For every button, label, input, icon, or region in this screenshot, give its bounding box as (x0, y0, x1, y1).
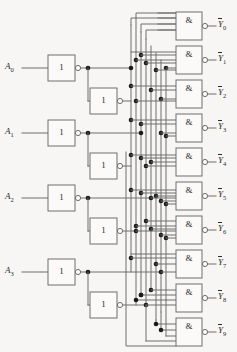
input-label-a3: A3 (5, 265, 14, 277)
svg-text:1: 1 (59, 127, 64, 137)
bus-feed-routing (131, 13, 176, 39)
gate-y4: & (176, 148, 216, 176)
svg-text:&: & (185, 117, 192, 127)
gate-y7: & (176, 250, 216, 278)
output-label-y0: Y0 (218, 19, 226, 31)
svg-text:&: & (185, 15, 192, 25)
svg-text:1: 1 (59, 266, 64, 276)
svg-text:&: & (185, 83, 192, 93)
gate-y2: & (176, 80, 216, 108)
svg-text:1: 1 (101, 299, 106, 309)
svg-text:&: & (185, 49, 192, 59)
circuit-diagram: 1 1 1 1 (0, 0, 237, 352)
svg-text:&: & (185, 219, 192, 229)
svg-text:1: 1 (101, 225, 106, 235)
gate-y5: & (176, 182, 216, 210)
nand-gate-row: & & & & & & & & & & (176, 12, 216, 346)
svg-text:&: & (185, 287, 192, 297)
input-label-a1: A1 (5, 126, 14, 138)
gate-y8: & (176, 284, 216, 312)
gate-y3: & (176, 114, 216, 142)
input-stage-a0: 1 1 (22, 55, 131, 114)
output-label-y3: Y3 (218, 121, 226, 133)
gate-y6: & (176, 216, 216, 244)
svg-text:&: & (185, 185, 192, 195)
input-stage-a3: 1 1 (22, 259, 161, 318)
output-label-y1: Y1 (218, 53, 226, 65)
svg-text:&: & (185, 253, 192, 263)
output-label-y4: Y4 (218, 155, 226, 167)
output-label-y5: Y5 (218, 189, 226, 201)
gate-y1: & (176, 46, 216, 74)
output-label-y9: Y9 (218, 325, 226, 337)
svg-text:1: 1 (101, 160, 106, 170)
output-label-y7: Y7 (218, 257, 226, 269)
output-label-y2: Y2 (218, 87, 226, 99)
svg-text:1: 1 (59, 62, 64, 72)
bus-junctions (129, 53, 169, 308)
svg-text:&: & (185, 151, 192, 161)
gate-y9: & (176, 318, 216, 346)
circuit-canvas: 1 1 1 1 (0, 0, 237, 352)
input-stage-a1: 1 1 (22, 120, 141, 179)
svg-text:1: 1 (59, 192, 64, 202)
output-label-y8: Y8 (218, 291, 226, 303)
output-label-y6: Y6 (218, 223, 226, 235)
svg-text:1: 1 (101, 95, 106, 105)
input-label-a0: A0 (5, 61, 14, 73)
input-stage-a2: 1 1 (22, 185, 151, 244)
input-label-a2: A2 (5, 191, 14, 203)
svg-text:&: & (185, 321, 192, 331)
gate-y0: & (176, 12, 216, 40)
